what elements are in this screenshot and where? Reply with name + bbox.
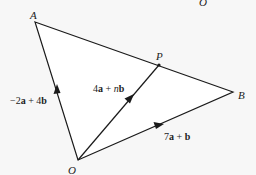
vector-diagram: A B O P O −2a + 4b 4a + nb 7a + b xyxy=(0,0,256,175)
label-b: B xyxy=(238,89,245,101)
label-o-stray: O xyxy=(199,0,207,8)
triangle-oab xyxy=(35,22,233,160)
label-a: A xyxy=(29,9,37,21)
label-p: P xyxy=(155,50,163,62)
vector-label-op: 4a + nb xyxy=(93,83,125,94)
vector-label-ob: 7a + b xyxy=(164,131,191,142)
label-o: O xyxy=(68,164,76,175)
vector-label-oa: −2a + 4b xyxy=(10,95,47,106)
point-p-dot xyxy=(157,63,160,66)
